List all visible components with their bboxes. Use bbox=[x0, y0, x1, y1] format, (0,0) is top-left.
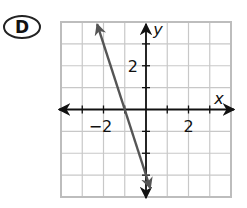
axes bbox=[59, 24, 234, 198]
x-tick-label: −2 bbox=[89, 117, 113, 136]
plotted-line bbox=[97, 24, 150, 188]
graph-line bbox=[97, 24, 150, 188]
y-tick-label: 2 bbox=[128, 57, 138, 76]
x-tick-label: 2 bbox=[183, 117, 193, 136]
x-axis-label: x bbox=[213, 89, 224, 108]
coordinate-plane: −222xy bbox=[0, 0, 247, 208]
y-axis-label: y bbox=[152, 20, 163, 39]
axis-labels: −222xy bbox=[89, 20, 225, 136]
